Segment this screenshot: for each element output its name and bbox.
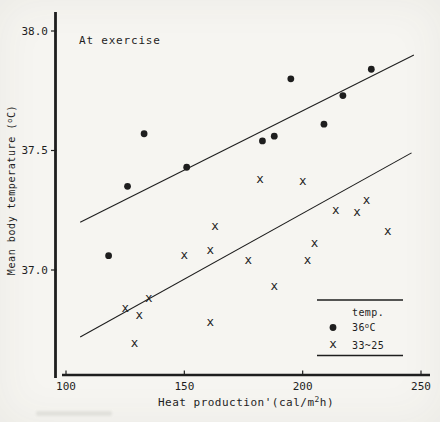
data-point-x: x <box>304 252 312 267</box>
data-point-x: x <box>271 278 279 293</box>
data-point-x: x <box>145 290 153 305</box>
legend-marker-dot <box>330 324 337 331</box>
data-point-dot <box>141 130 148 137</box>
legend-entry-label: 33~25 <box>352 340 384 351</box>
scanned-figure-page: 100150200250 38.037.537.0 xxxxxxxxxxxxxx… <box>0 0 440 422</box>
y-tick-label: 38.0 <box>22 25 49 38</box>
legend: temp.36oCx33~25 <box>317 300 403 356</box>
y-axis-label: Mean body temperature (oC) <box>5 105 18 275</box>
data-point-x: x <box>211 218 219 233</box>
data-point-x: x <box>131 335 139 350</box>
legend-title: temp. <box>352 307 384 318</box>
data-point-dot <box>340 92 347 99</box>
data-point-dot <box>259 138 266 145</box>
data-point-dot <box>124 183 131 190</box>
y-tick-label: 37.0 <box>22 264 49 277</box>
legend-marker-x: x <box>329 336 337 351</box>
data-point-dot <box>271 133 278 140</box>
data-point-dot <box>105 252 112 259</box>
data-point-dot <box>183 164 190 171</box>
x-tick-label: 150 <box>174 380 194 393</box>
x-tick-label: 200 <box>293 380 313 393</box>
data-points: xxxxxxxxxxxxxxxxxx <box>105 66 392 351</box>
y-axis-ticks: 38.037.537.0 <box>22 25 57 277</box>
data-point-x: x <box>299 173 307 188</box>
data-point-x: x <box>332 202 340 217</box>
data-point-x: x <box>181 247 189 262</box>
data-point-x: x <box>207 314 215 329</box>
x-tick-label: 100 <box>56 380 76 393</box>
data-point-x: x <box>384 223 392 238</box>
data-point-dot <box>287 75 294 82</box>
data-point-x: x <box>311 235 319 250</box>
data-point-x: x <box>256 171 264 186</box>
data-point-x: x <box>207 242 215 257</box>
data-point-x: x <box>244 252 252 267</box>
legend-entry-label: 36oC <box>352 321 376 333</box>
data-point-x: x <box>353 204 361 219</box>
scan-artifact <box>36 411 112 416</box>
data-point-x: x <box>121 300 129 315</box>
annotation-at-exercise: At exercise <box>79 34 161 47</box>
y-tick-label: 37.5 <box>22 144 49 157</box>
data-point-x: x <box>136 307 144 322</box>
data-point-dot <box>321 121 328 128</box>
data-point-x: x <box>363 192 371 207</box>
x-tick-label: 250 <box>411 380 431 393</box>
x-axis-label: Heat production'(cal/m2h) <box>158 395 334 409</box>
scatter-chart: 100150200250 38.037.537.0 xxxxxxxxxxxxxx… <box>0 0 440 422</box>
data-point-dot <box>368 66 375 73</box>
